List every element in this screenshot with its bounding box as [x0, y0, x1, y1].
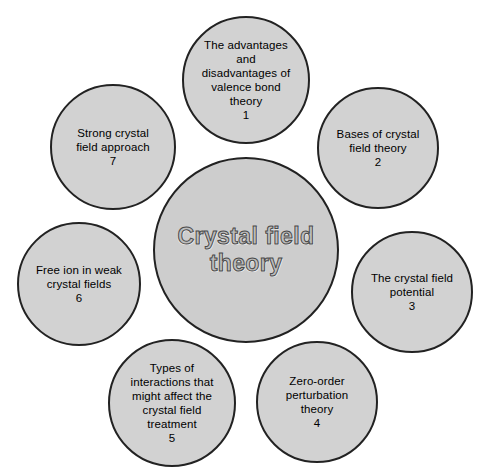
topic-circle-1[interactable]: The advantages and disadvantages of vale… — [182, 16, 310, 144]
topic-circle-7[interactable]: Strong crystal field approach 7 — [50, 84, 176, 210]
topic-label-1: The advantages and disadvantages of vale… — [194, 38, 299, 122]
topic-label-7: Strong crystal field approach 7 — [68, 126, 158, 168]
topic-circle-5[interactable]: Types of interactions that might affect … — [108, 339, 236, 467]
topic-label-2: Bases of crystal field theory 2 — [329, 127, 428, 169]
topic-label-3: The crystal field potential 3 — [363, 271, 461, 313]
central-topic-label: Crystal field theory — [172, 223, 321, 277]
topic-circle-2[interactable]: Bases of crystal field theory 2 — [317, 87, 439, 209]
topic-label-5: Types of interactions that might affect … — [123, 361, 222, 445]
central-topic-circle[interactable]: Crystal field theory — [153, 157, 339, 343]
crystal-field-theory-diagram: The advantages and disadvantages of vale… — [0, 0, 487, 471]
topic-label-4: Zero-order perturbation theory 4 — [278, 374, 357, 430]
topic-label-6: Free ion in weak crystal fields 6 — [28, 263, 130, 305]
topic-circle-3[interactable]: The crystal field potential 3 — [351, 231, 473, 353]
topic-circle-6[interactable]: Free ion in weak crystal fields 6 — [17, 222, 141, 346]
topic-circle-4[interactable]: Zero-order perturbation theory 4 — [256, 341, 378, 463]
